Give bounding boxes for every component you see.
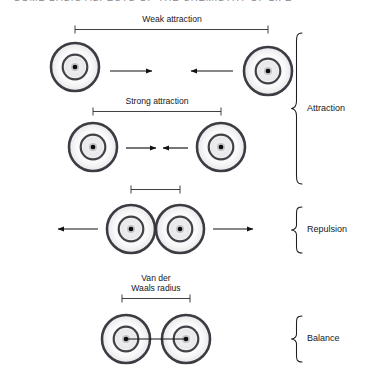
row-weak-attraction: Weak attraction xyxy=(50,14,294,97)
row-repulsion xyxy=(58,186,253,255)
row-strong-attraction: Strong attraction xyxy=(68,96,247,173)
strong-attraction-dimension-line xyxy=(93,108,221,116)
atom-left-weak xyxy=(50,42,101,93)
brace-label-attraction: Attraction xyxy=(307,103,345,113)
weak-attraction-label: Weak attraction xyxy=(142,14,202,24)
atom-left-repulsion xyxy=(106,204,157,255)
brace-balance: Balance xyxy=(292,316,340,362)
weak-attraction-dimension-line xyxy=(75,26,268,34)
brace-attraction: Attraction xyxy=(292,33,346,184)
diagram-canvas: Weak attraction Strong attracti xyxy=(0,0,368,381)
brace-repulsion: Repulsion xyxy=(292,207,348,253)
atom-right-weak xyxy=(243,46,294,97)
brace-label-repulsion: Repulsion xyxy=(307,224,347,234)
vdw-radius-label-line2: Waals radius xyxy=(131,283,180,293)
row-balance: Van der Waals radius xyxy=(101,273,212,365)
atom-left-strong xyxy=(68,122,119,173)
strong-attraction-label: Strong attraction xyxy=(125,96,188,106)
brace-label-balance: Balance xyxy=(307,333,340,343)
vdw-radius-label-line1: Van der xyxy=(141,273,171,283)
vdw-radius-dimension-line xyxy=(122,295,190,303)
diagram-page: SOME BASIC ASPECTS OF THE CHEMISTRY OF L… xyxy=(0,0,368,381)
repulsion-dimension-line xyxy=(131,186,180,194)
atom-right-strong xyxy=(196,122,247,173)
atom-right-repulsion xyxy=(155,204,206,255)
